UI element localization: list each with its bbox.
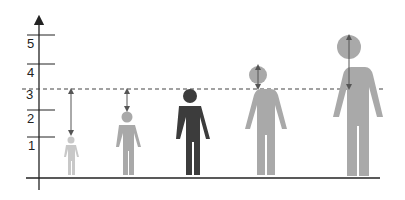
y-tick-label-1: 1: [28, 139, 35, 152]
y-tick-label-3: 3: [26, 88, 33, 101]
person-figure-3: [176, 89, 210, 175]
diagram-canvas: [0, 0, 405, 200]
person-figure-5: [333, 35, 383, 176]
y-tick-label-5: 5: [27, 37, 34, 50]
person-figure-2: [116, 112, 141, 176]
height-comparison-diagram: 5 4 3 2 1: [0, 0, 405, 200]
person-figure-4: [245, 66, 287, 175]
y-tick-label-4: 4: [27, 66, 34, 79]
person-figure-1: [64, 137, 79, 176]
y-tick-label-2: 2: [27, 112, 34, 125]
